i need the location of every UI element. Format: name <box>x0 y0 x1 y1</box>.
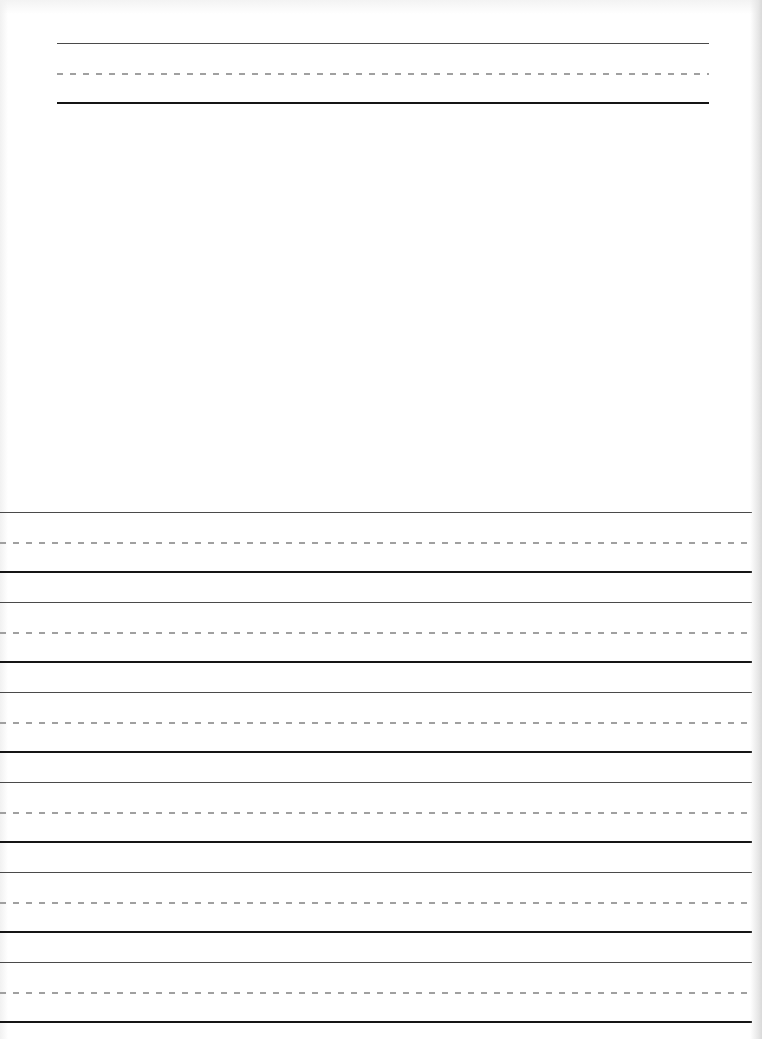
dashed-midline <box>0 542 752 544</box>
writing-line-set[interactable] <box>0 602 752 663</box>
title-top-line <box>57 43 709 44</box>
top-line <box>0 872 752 873</box>
baseline <box>0 841 752 843</box>
top-line <box>0 602 752 603</box>
dashed-midline <box>0 812 752 814</box>
baseline <box>0 571 752 573</box>
paper-bleed-through <box>0 0 762 14</box>
dashed-midline <box>0 632 752 634</box>
dashed-midline <box>0 722 752 724</box>
top-line <box>0 962 752 963</box>
writing-line-set[interactable] <box>0 782 752 843</box>
writing-line-set[interactable] <box>0 692 752 753</box>
writing-line-set[interactable] <box>0 872 752 933</box>
title-dashed-midline <box>57 73 709 75</box>
writing-line-set[interactable] <box>0 512 752 573</box>
page-right-edge <box>750 0 762 1039</box>
title-baseline <box>57 102 709 104</box>
baseline <box>0 751 752 753</box>
top-line <box>0 512 752 513</box>
top-line <box>0 782 752 783</box>
drawing-area[interactable] <box>0 110 752 505</box>
baseline <box>0 661 752 663</box>
dashed-midline <box>0 992 752 994</box>
practice-sheet <box>0 0 762 1039</box>
writing-line-set[interactable] <box>0 962 752 1023</box>
dashed-midline <box>0 902 752 904</box>
baseline <box>0 931 752 933</box>
top-line <box>0 692 752 693</box>
baseline <box>0 1021 752 1023</box>
title-line-set <box>57 43 709 105</box>
